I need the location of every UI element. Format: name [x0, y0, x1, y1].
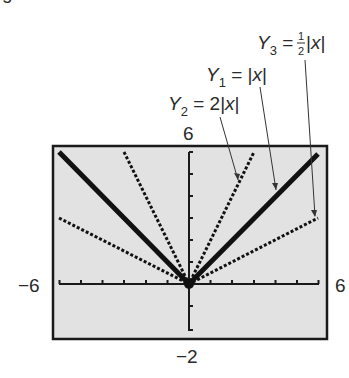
svg-text:|x|: |x|	[306, 32, 325, 53]
origin-vertex	[184, 279, 194, 289]
svg-text:2: 2	[298, 45, 304, 57]
label-y3: Y3 =	[257, 32, 293, 58]
label-y3-fraction: 1 2	[297, 30, 305, 57]
ymin-label: −2	[176, 346, 198, 367]
caption-fragment: g	[2, 0, 13, 3]
svg-text:1: 1	[298, 30, 304, 42]
label-y2: Y2 = 2|x|	[168, 93, 240, 119]
graph-figure: g	[0, 0, 349, 378]
ymax-label: 6	[183, 123, 194, 144]
xmin-label: −6	[18, 275, 40, 296]
label-y1: Y1 = |x|	[206, 64, 267, 90]
xmax-label: 6	[335, 275, 346, 296]
